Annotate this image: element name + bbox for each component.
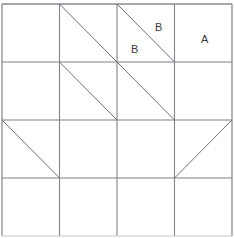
diagonal-c1r3 — [2, 120, 60, 178]
diagonal-c3r2 — [117, 62, 175, 120]
diagonal-c4r3 — [175, 120, 233, 178]
label-b-lower: B — [131, 44, 138, 55]
label-b-upper: B — [155, 22, 162, 33]
diagonal-c3r1 — [117, 4, 175, 62]
diagonal-c2r1 — [60, 4, 118, 62]
diagonal-c2r2 — [60, 62, 118, 120]
label-a: A — [201, 34, 208, 45]
grid-figure-canvas — [0, 0, 234, 238]
grid-figure: B B A — [0, 0, 234, 238]
